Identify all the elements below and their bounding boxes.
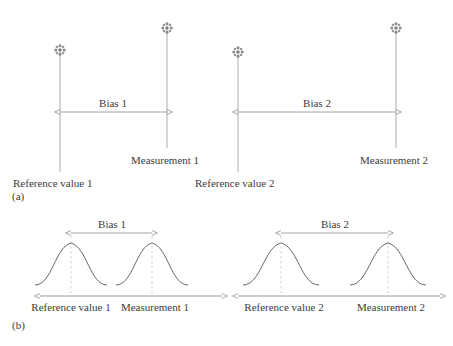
measurement-axis-label-2: Measurement 2: [357, 302, 425, 313]
bias-label-1: Bias 1: [99, 98, 127, 109]
figure-graphics: [0, 0, 453, 346]
gaussian-curve-measurement-2: [350, 243, 426, 285]
gaussian-curve-measurement-1: [116, 243, 188, 285]
measurement-axis-label-1: Measurement 1: [121, 302, 189, 313]
measurement-star-icon-2: [390, 22, 401, 33]
panel-a-label: (a): [12, 191, 24, 202]
panel-b-label: (b): [12, 320, 25, 331]
measurement-bias-figure: Bias 1 Reference value 1 Measurement 1 B…: [0, 0, 453, 346]
measurement-star-icon-1: [161, 22, 172, 33]
bias-label-panel-b-1: Bias 1: [98, 219, 126, 230]
reference-value-label-1: Reference value 1: [13, 178, 92, 189]
panel-b-graphics: [35, 233, 440, 296]
reference-value-axis-label-1: Reference value 1: [31, 302, 110, 313]
reference-value-axis-label-2: Reference value 2: [244, 302, 323, 313]
bias-label-2: Bias 2: [303, 98, 331, 109]
reference-star-icon-1: [54, 44, 65, 55]
measurement-label-1: Measurement 1: [131, 155, 199, 166]
reference-value-label-2: Reference value 2: [195, 178, 274, 189]
gaussian-curve-reference-2: [243, 243, 319, 285]
gaussian-curve-reference-1: [35, 243, 107, 285]
bias-label-panel-b-2: Bias 2: [321, 219, 349, 230]
reference-star-icon-2: [232, 46, 243, 57]
measurement-label-2: Measurement 2: [360, 155, 428, 166]
